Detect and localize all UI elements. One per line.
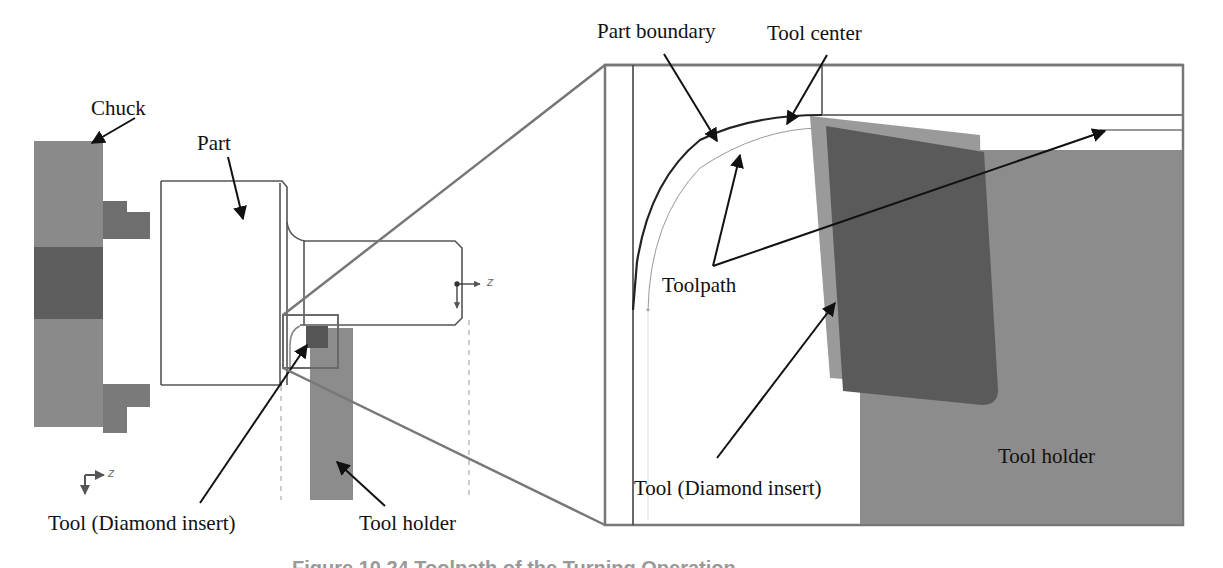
global-axis-z-label: Z xyxy=(108,470,114,479)
label-toolpath: Toolpath xyxy=(662,275,736,296)
figure-caption: Figure 10.24 Toolpath of the Turning Ope… xyxy=(292,556,736,568)
part-axes-icon xyxy=(455,282,480,308)
label-part-boundary: Part boundary xyxy=(597,21,715,42)
label-tool-holder-detail: Tool holder xyxy=(998,446,1095,467)
label-part: Part xyxy=(197,133,231,154)
label-chuck: Chuck xyxy=(91,98,146,119)
lathe-diagram xyxy=(0,0,1223,568)
global-axes-icon xyxy=(85,475,104,494)
label-tool-center: Tool center xyxy=(767,23,862,44)
label-tool-detail: Tool (Diamond insert) xyxy=(634,478,822,499)
tool-assembly xyxy=(283,315,353,500)
chuck xyxy=(34,141,150,433)
label-tool-left: Tool (Diamond insert) xyxy=(48,513,236,534)
label-tool-holder-left: Tool holder xyxy=(359,513,456,534)
part-axis-z-label: Z xyxy=(487,279,493,288)
